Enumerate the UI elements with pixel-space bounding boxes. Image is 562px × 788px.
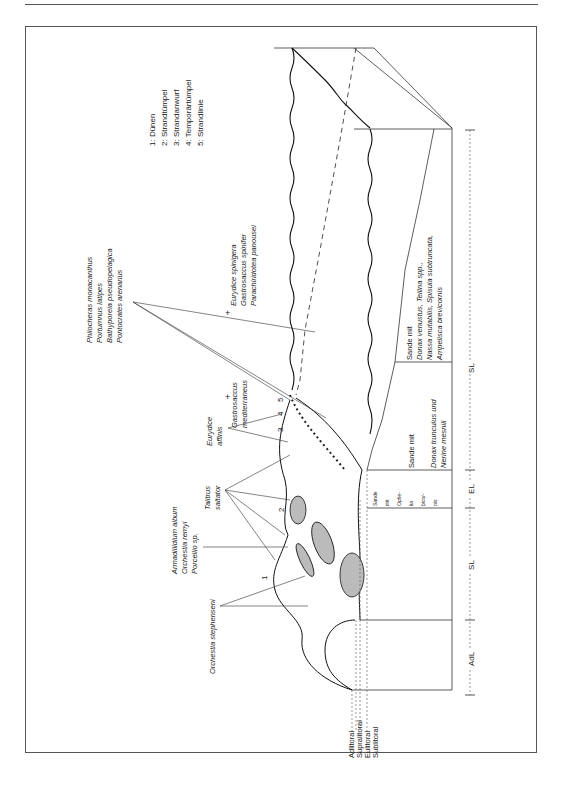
- species-armadillidium-1: Armadillidium album: [170, 506, 179, 575]
- zone-label-sublitoral: SL: [467, 363, 476, 373]
- sediment-outer-line-3: Nassa mutabilis, Spisula subtruncata,: [425, 235, 434, 360]
- sediment-middle-line-4: Nerine mesnili: [439, 420, 448, 468]
- sea-surface-lines: [290, 48, 372, 434]
- species-talitrus-2: saltator: [213, 485, 222, 510]
- site-number-4: 4: [276, 411, 285, 416]
- species-talitrus-1: Talitrus: [203, 486, 212, 510]
- sediment-middle-line-3: Donax trunculus und: [429, 398, 438, 468]
- low-tide-line: [296, 48, 356, 395]
- species-armadillidium-3: Porcellio sp.: [190, 533, 199, 574]
- site-numbers: 1 2 3 4 5: [260, 397, 286, 580]
- species-subtidal-2: Gastrosaccus spinifer: [239, 233, 248, 306]
- sediment-narrow-5: bicor-: [420, 493, 426, 506]
- sediment-box-narrow: Sande mit Ophe- lia bicor- nis: [372, 491, 438, 506]
- sediment-box-outer: Sande mit Donax venustus, Tellina spp., …: [405, 235, 444, 361]
- sediment-narrow-2: mit: [384, 499, 390, 506]
- beach-profile-diagram: SL EL SL AdL 1: Dünen 2: Strandtümpel 3:…: [0, 0, 562, 788]
- species-eurydice-affinis-1: Eurydice: [205, 417, 214, 446]
- species-offshore-4: Pontocrates arenarius: [115, 269, 124, 343]
- zone-label-eulitoral: EL: [467, 484, 476, 494]
- sediment-narrow-4: lia: [408, 501, 414, 506]
- species-subtidal-3: Parachiridotea panousei: [249, 225, 258, 306]
- sediment-narrow-6: nis: [432, 499, 438, 506]
- site-number-2: 2: [277, 507, 286, 512]
- beach-pools: [290, 496, 364, 597]
- zone-legend-sublitoral: Sublitoral: [371, 726, 380, 758]
- zone-legend: Adlitoral Supralitoral Eulitoral Sublito…: [347, 720, 380, 758]
- legend-item-2: 2: Strandtümpel: [160, 89, 169, 146]
- species-armadillidium-2: Orchestia remyi: [180, 521, 189, 574]
- site-number-5: 5: [276, 397, 285, 402]
- legend-item-1: 1: Dünen: [148, 114, 157, 146]
- species-offshore-3: Bathyporeia pseudopelagica: [105, 248, 114, 343]
- sediment-box-middle: Sande mit Donax trunculus und Nerine mes…: [407, 398, 448, 468]
- plus-marker-2: +: [225, 392, 230, 402]
- sediment-outer-line-4: Ampelisca brevicornis: [435, 287, 444, 361]
- zone-label-adlitoral: AdL: [467, 651, 476, 666]
- site-legend: 1: Dünen 2: Strandtümpel 3: Strandanwurf…: [148, 79, 205, 146]
- legend-item-4: 4: Temporärtümpel: [184, 79, 193, 146]
- sediment-outer-line-2: Donax venustus, Tellina spp.,: [415, 262, 424, 360]
- species-offshore-1: Philocheras monacanthus: [85, 256, 94, 343]
- species-gastrosaccus-1: Gastrosaccus: [230, 382, 239, 428]
- species-gastrosaccus-2: mediterraneus: [240, 380, 249, 428]
- species-eurydice-affinis-2: affinis: [215, 426, 224, 446]
- pointer-lines: [133, 302, 326, 606]
- species-orchestia-stephenseni: Orchestia stephenseni: [208, 599, 217, 674]
- species-offshore-2: Portumnus latipes: [95, 283, 104, 343]
- species-subtidal-1: Eurydice spinigera: [229, 244, 238, 306]
- zone-ruler: SL EL SL AdL: [465, 130, 476, 695]
- site-number-1: 1: [260, 575, 269, 580]
- wrack-line: [290, 395, 345, 470]
- legend-item-3: 3: Strandanwurf: [172, 89, 181, 146]
- sediment-narrow-3: Ophe-: [396, 492, 402, 506]
- species-labels: Philocheras monacanthus Portumnus latipe…: [85, 225, 258, 674]
- sediment-middle-line-1: Sande mit: [407, 433, 416, 468]
- legend-item-5: 5: Strandlinie: [196, 99, 205, 146]
- plus-marker-1: +: [225, 308, 230, 318]
- sediment-outer-line-1: Sande mit: [405, 325, 414, 360]
- zone-label-supralitoral: SL: [467, 560, 476, 570]
- site-number-3: 3: [276, 427, 285, 432]
- sediment-narrow-1: Sande: [372, 491, 378, 506]
